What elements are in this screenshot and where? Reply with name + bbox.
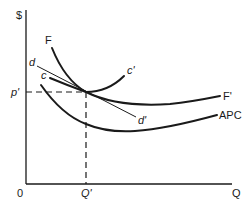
price-label: p' [10,86,20,98]
curve-f-start-label: F [45,34,52,46]
curve-f [52,48,220,105]
y-axis-label: $ [16,9,22,21]
line-d-start-label: d [29,56,36,68]
x-axis-label: Q [232,187,241,199]
origin-label: 0 [17,187,23,199]
quantity-label: Q' [81,187,93,199]
cost-curves-diagram: $ 0 Q p' Q' F F' c c' d d' APC [0,0,251,207]
curve-f-end-label: F' [223,90,232,102]
curve-c-start-label: c [41,69,47,81]
line-d-end-label: d' [138,114,147,126]
curve-c-end-label: c' [127,64,136,76]
curve-apc-label: APC [219,109,242,121]
